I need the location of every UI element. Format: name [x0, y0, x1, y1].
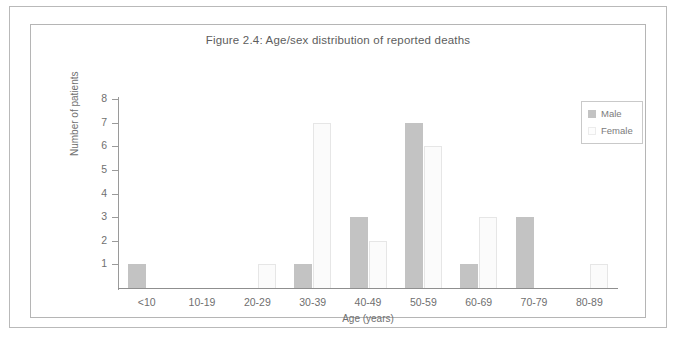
- bar-female-40-49: [369, 241, 387, 288]
- x-axis-line: [118, 288, 618, 289]
- y-axis-tick-label: 4: [101, 187, 107, 199]
- bar-male-50-59: [405, 123, 423, 288]
- x-axis-tick-label: 20-29: [244, 296, 271, 308]
- bar-female-50-59: [424, 146, 442, 288]
- bar-male-40-49: [350, 217, 368, 288]
- legend-item-female: Female: [588, 125, 633, 136]
- x-axis-tick-label: 30-39: [299, 296, 326, 308]
- y-axis-tick: 6: [112, 146, 119, 147]
- y-axis-tick-label: 1: [101, 257, 107, 269]
- y-axis-tick: 2: [112, 241, 119, 242]
- legend-label-male: Male: [601, 108, 622, 119]
- bar-female-60-69: [479, 217, 497, 288]
- x-axis-tick-label: 70-79: [521, 296, 548, 308]
- figure-container: Figure 2.4: Age/sex distribution of repo…: [30, 24, 646, 318]
- y-axis-tick: 4: [112, 194, 119, 195]
- x-axis-tick-label: 50-59: [410, 296, 437, 308]
- legend-label-female: Female: [601, 125, 633, 136]
- figure-page: Figure 2.4: Age/sex distribution of repo…: [0, 0, 677, 337]
- x-axis-tick-label: 60-69: [465, 296, 492, 308]
- y-axis-tick: 3: [112, 217, 119, 218]
- y-axis-tick: 7: [112, 123, 119, 124]
- y-axis-tick: 5: [112, 170, 119, 171]
- x-axis-tick-label: 80-89: [576, 296, 603, 308]
- legend-swatch-male-icon: [588, 110, 596, 118]
- chart-legend: Male Female: [581, 101, 643, 144]
- bar-female-80-89: [590, 264, 608, 288]
- legend-item-male: Male: [588, 108, 622, 119]
- bar-male-<10: [128, 264, 146, 288]
- x-axis-tick-label: 40-49: [355, 296, 382, 308]
- y-axis-tick-label: 5: [101, 163, 107, 175]
- y-axis-tick: 8: [112, 99, 119, 100]
- bar-male-60-69: [460, 264, 478, 288]
- y-axis-tick-label: 7: [101, 116, 107, 128]
- y-axis-tick-label: 2: [101, 234, 107, 246]
- bar-female-30-39: [313, 123, 331, 288]
- x-axis-tick-label: 10-19: [189, 296, 216, 308]
- legend-swatch-female-icon: [588, 127, 596, 135]
- x-axis-tick-label: <10: [138, 296, 156, 308]
- y-axis-tick-label: 3: [101, 210, 107, 222]
- x-axis-title: Age (years): [119, 313, 617, 324]
- plot-area: [119, 99, 617, 288]
- bar-male-30-39: [294, 264, 312, 288]
- y-axis-title: Number of patients: [69, 72, 80, 157]
- y-axis-tick-label: 8: [101, 92, 107, 104]
- bar-male-70-79: [516, 217, 534, 288]
- figure-title: Figure 2.4: Age/sex distribution of repo…: [31, 34, 645, 46]
- y-axis-tick: 1: [112, 264, 119, 265]
- y-axis-tick-label: 6: [101, 139, 107, 151]
- bar-female-20-29: [258, 264, 276, 288]
